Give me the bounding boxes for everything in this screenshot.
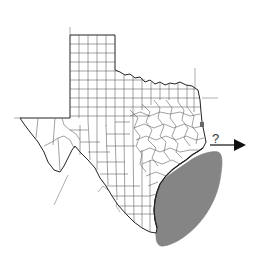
texas-county-map [0,0,259,260]
arrow-question-label: ? [212,132,219,145]
